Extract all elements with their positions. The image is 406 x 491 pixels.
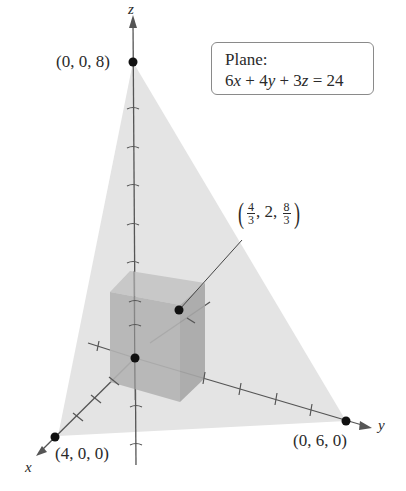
- point-y-intercept: [342, 417, 351, 426]
- point-z-intercept: [129, 58, 138, 67]
- y-axis-label: y: [378, 418, 385, 433]
- plane-title: Plane:: [225, 49, 373, 70]
- x-fraction: 43: [247, 201, 255, 226]
- box-vertex-label: (43, 2, 83): [236, 196, 302, 230]
- rectangular-box: [110, 271, 205, 402]
- point-x-intercept: [51, 433, 60, 442]
- z-axis-label: z: [128, 2, 134, 17]
- x-axis-label: x: [25, 460, 32, 475]
- plane-equation-box: Plane: 6x + 4y + 3z = 24: [211, 42, 374, 95]
- plane-box-3d-figure: z x y (0, 0, 8) (4, 0, 0) (0, 6, 0) Plan…: [0, 0, 406, 491]
- x-intercept-label: (4, 0, 0): [55, 445, 109, 462]
- z-fraction: 83: [283, 201, 291, 226]
- y-intercept-label: (0, 6, 0): [293, 432, 347, 449]
- plane-equation: 6x + 4y + 3z = 24: [225, 70, 373, 91]
- point-origin: [131, 354, 140, 363]
- z-intercept-label: (0, 0, 8): [56, 53, 110, 70]
- point-box-vertex: [175, 306, 184, 315]
